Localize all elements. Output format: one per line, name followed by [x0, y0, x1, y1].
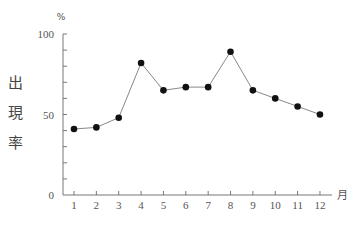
y-tick-label: 50 [43, 109, 55, 121]
x-tick-label: 10 [270, 199, 282, 211]
x-tick-label: 8 [228, 199, 234, 211]
data-point [205, 84, 212, 91]
data-point [250, 87, 257, 94]
y-axis-title-char: 出 [8, 74, 23, 92]
y-tick-label: 0 [49, 189, 55, 201]
x-tick-label: 5 [161, 199, 167, 211]
data-point [93, 124, 100, 131]
x-tick-label: 9 [250, 199, 256, 211]
data-point [294, 103, 301, 110]
y-tick-label: 100 [38, 28, 55, 40]
data-series [71, 48, 324, 132]
series-line [74, 52, 320, 129]
x-tick-label: 4 [138, 199, 144, 211]
data-point [272, 95, 279, 102]
x-tick-label: 7 [205, 199, 211, 211]
y-unit-label: % [57, 12, 66, 22]
data-point [317, 111, 324, 118]
data-point [115, 114, 122, 121]
data-point [183, 84, 190, 91]
y-axis-title-char: 率 [8, 134, 23, 152]
x-tick-label: 6 [183, 199, 189, 211]
y-axis: 050100% [38, 12, 68, 201]
data-point [71, 126, 78, 133]
x-tick-label: 3 [116, 199, 122, 211]
x-tick-label: 2 [94, 199, 100, 211]
x-tick-label: 11 [292, 199, 303, 211]
y-axis-title: 出現率 [8, 74, 23, 152]
y-axis-title-char: 現 [8, 104, 23, 122]
x-tick-label: 1 [71, 199, 77, 211]
line-chart: 050100% 123456789101112月 出現率 [0, 0, 357, 225]
data-point [160, 87, 167, 94]
x-axis-title: 月 [337, 189, 348, 202]
x-axis: 123456789101112月 [63, 189, 348, 211]
data-point [227, 48, 234, 55]
data-point [138, 60, 145, 67]
x-tick-label: 12 [314, 199, 325, 211]
